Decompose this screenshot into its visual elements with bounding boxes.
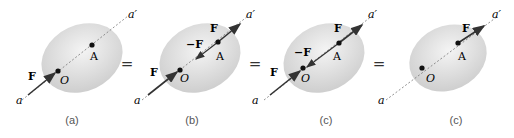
label-A: A bbox=[458, 50, 466, 63]
caption-c2: (c) bbox=[436, 114, 476, 126]
label-force-F-at-A: F bbox=[210, 22, 218, 35]
label-O: O bbox=[180, 72, 189, 85]
label-O: O bbox=[60, 74, 69, 87]
point-O bbox=[55, 68, 60, 73]
label-a-prime: a′ bbox=[246, 8, 255, 21]
label-neg-force: −F bbox=[186, 38, 203, 51]
point-O bbox=[300, 65, 305, 70]
equals-sign: = bbox=[248, 55, 262, 73]
label-force-F-at-A: F bbox=[462, 22, 470, 35]
rigid-body bbox=[272, 10, 376, 105]
rigid-body bbox=[30, 10, 130, 105]
point-A bbox=[336, 40, 341, 45]
caption-c1: (c) bbox=[306, 114, 346, 126]
label-A: A bbox=[90, 50, 98, 63]
label-a: a bbox=[134, 94, 141, 107]
label-A: A bbox=[216, 50, 224, 63]
point-O bbox=[419, 65, 424, 70]
label-neg-force: −F bbox=[294, 46, 311, 59]
label-a-prime: a′ bbox=[492, 8, 501, 21]
label-a: a bbox=[252, 94, 259, 107]
label-a: a bbox=[16, 94, 23, 107]
point-A bbox=[89, 42, 94, 47]
caption-a: (a) bbox=[52, 114, 92, 126]
label-a-prime: a′ bbox=[128, 8, 137, 21]
label-O: O bbox=[426, 72, 435, 85]
label-A: A bbox=[333, 50, 341, 63]
label-a-prime: a′ bbox=[368, 8, 377, 21]
label-force-F: F bbox=[28, 70, 36, 83]
equals-sign: = bbox=[372, 55, 386, 73]
label-force-F-at-O: F bbox=[270, 66, 278, 79]
point-A bbox=[215, 39, 220, 44]
label-force-F-at-A: F bbox=[334, 22, 342, 35]
principle-of-transmissibility-figure: a a′ F O A a a′ F F −F O A a a′ F F −F O… bbox=[0, 0, 514, 138]
label-a: a bbox=[378, 94, 385, 107]
rigid-body bbox=[148, 10, 252, 105]
label-O: O bbox=[301, 72, 310, 85]
point-A bbox=[455, 40, 460, 45]
caption-b: (b) bbox=[172, 114, 212, 126]
label-force-F-at-O: F bbox=[150, 66, 158, 79]
equals-sign: = bbox=[120, 55, 134, 73]
